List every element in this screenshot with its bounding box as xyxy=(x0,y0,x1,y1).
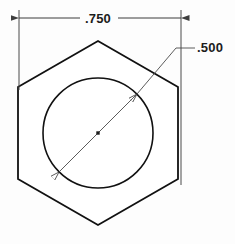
center-mark xyxy=(96,131,99,134)
technical-drawing: .750 .500 xyxy=(0,0,235,244)
diameter-dimension-label[interactable]: .500 xyxy=(197,40,223,55)
cad-drawing-canvas[interactable]: .750 .500 xyxy=(0,0,235,244)
width-dimension-label[interactable]: .750 xyxy=(85,11,111,26)
